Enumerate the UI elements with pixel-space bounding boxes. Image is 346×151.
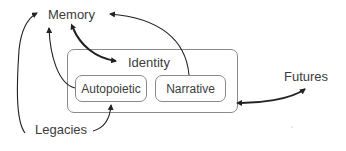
futures-identity-arrow — [241, 89, 305, 103]
identity-diagram: Identity Autopoietic Narrative Memory Le… — [0, 0, 346, 151]
autopoietic-memory-arrow — [49, 28, 75, 88]
narrative-memory-arrow — [110, 14, 189, 75]
legacies-autopoietic-arrow — [93, 105, 111, 131]
arrows-layer — [0, 0, 346, 151]
legacies-memory-arrow — [17, 13, 37, 133]
memory-identity-arrow — [73, 28, 116, 61]
speck — [291, 126, 293, 128]
